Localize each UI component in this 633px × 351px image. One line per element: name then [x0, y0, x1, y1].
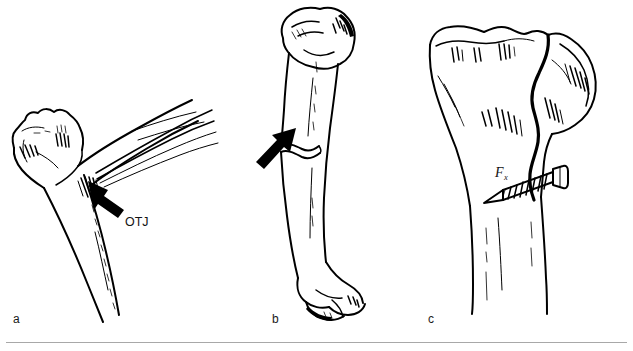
- humeral-head-shading: [333, 14, 354, 37]
- panel-label-c: c: [428, 313, 434, 325]
- tendon-fibers: [96, 110, 218, 187]
- bone-internal-markings: [92, 205, 115, 309]
- bone-head-contours: [22, 127, 58, 168]
- figure-container: OTJ a: [0, 0, 633, 351]
- bone-shaft: [44, 175, 119, 322]
- metaphysis-hatching-left: [438, 76, 464, 126]
- lateral-fragment-hatching: [545, 64, 589, 124]
- lag-screw: [484, 166, 568, 203]
- tibial-shaft: [486, 197, 547, 314]
- plateau-hatching-upper: [452, 44, 515, 62]
- bone-head-hatching: [20, 125, 69, 158]
- force-arrow-icon: [256, 128, 296, 169]
- figure-panel-c: c: [400, 0, 633, 345]
- figure-panel-b: Fx b: [220, 0, 410, 345]
- figure-bottom-rule: [6, 342, 627, 343]
- otj-label: OTJ: [125, 216, 149, 229]
- panel-label-a: a: [13, 313, 20, 325]
- panel-b-illustration: [220, 0, 410, 345]
- tibial-plateau-top-contours: [436, 39, 534, 46]
- panel-a-illustration: [0, 0, 220, 345]
- distal-humerus-condyles: [297, 262, 365, 320]
- panel-label-b: b: [272, 313, 279, 325]
- figure-panel-a: OTJ a: [0, 0, 220, 345]
- cancellous-hatching-center: [482, 108, 522, 136]
- panel-c-illustration: [400, 0, 633, 345]
- humerus-shaft: [281, 53, 338, 278]
